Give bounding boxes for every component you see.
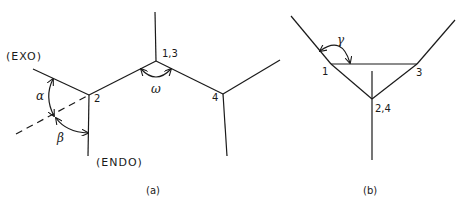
gamma-label: γ (337, 33, 345, 47)
bond-2-13 (89, 61, 156, 95)
vertex-13-label: 1,3 (162, 48, 178, 59)
omega-label: ω (151, 82, 161, 96)
panel-a-caption: (a) (146, 185, 160, 196)
endo-bond (88, 95, 89, 156)
bond-24-3 (372, 64, 417, 99)
bisector-dashed-line (16, 95, 89, 134)
endo-label: (ENDO) (96, 156, 143, 169)
panel-b-caption: (b) (363, 185, 377, 196)
vertex-1-label: 1 (322, 66, 328, 77)
alpha-label: α (36, 89, 44, 103)
vertex-24-label: 2,4 (375, 103, 391, 114)
omega-angle-arc (141, 69, 171, 77)
vertex-2-label: 2 (94, 93, 100, 104)
diagram-canvas: (EXO) (ENDO) 2 1,3 4 α β ω (a) γ 1 3 2,4… (0, 0, 466, 204)
bond-13-4 (156, 61, 223, 94)
bond-1-24 (331, 64, 372, 99)
bond-4-right (223, 60, 280, 94)
alpha-angle-arc (49, 79, 54, 116)
vertex-3-label: 3 (416, 67, 422, 78)
gamma-angle-arc (320, 45, 350, 63)
right-arm (417, 20, 455, 64)
beta-label: β (56, 131, 64, 145)
panel-b: γ 1 3 2,4 (b) (291, 16, 455, 196)
panel-a: (EXO) (ENDO) 2 1,3 4 α β ω (a) (6, 12, 280, 196)
left-arm (291, 16, 331, 64)
vertex-4-label: 4 (212, 92, 218, 103)
bond-4-down (223, 94, 227, 156)
bond-13-up (155, 12, 156, 61)
exo-label: (EXO) (6, 50, 42, 63)
